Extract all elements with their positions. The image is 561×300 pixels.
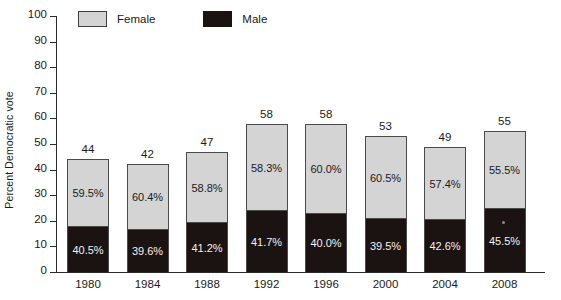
y-tick-mark [50, 118, 56, 119]
bar-segment-female[interactable]: 58.3% [247, 125, 287, 210]
bar-segment-label-male: 39.6% [132, 245, 163, 257]
bar-segment-label-male: 39.5% [370, 240, 401, 252]
y-tick-mark [50, 170, 56, 171]
bar-group[interactable]: 60.4%39.6%42 [127, 16, 169, 272]
bar-segment-label-male: 40.5% [72, 244, 103, 256]
scan-artifact-dot [502, 221, 505, 224]
bar-total-label: 55 [484, 115, 526, 127]
x-tick-label: 2004 [424, 278, 466, 290]
bar-segment-female[interactable]: 59.5% [68, 160, 108, 226]
y-tick-label: 10 [21, 238, 47, 250]
stacked-bar[interactable]: 55.5%45.5% [484, 131, 526, 272]
y-tick-label: 80 [21, 59, 47, 71]
y-tick-label: 70 [21, 85, 47, 97]
bar-segment-female[interactable]: 60.4% [128, 165, 168, 229]
bar-total-label: 53 [365, 120, 407, 132]
y-tick-mark [50, 246, 56, 247]
bar-total-label: 58 [305, 108, 347, 120]
y-tick-mark [50, 195, 56, 196]
x-axis-line [56, 272, 545, 273]
stacked-bar[interactable]: 60.5%39.5% [365, 136, 407, 272]
stacked-bar[interactable]: 60.4%39.6% [127, 164, 169, 272]
bar-group[interactable]: 58.8%41.2%47 [186, 16, 228, 272]
y-tick-label: 60 [21, 110, 47, 122]
y-tick-label: 100 [21, 8, 47, 20]
y-tick-mark [50, 221, 56, 222]
bar-segment-female[interactable]: 57.4% [425, 148, 465, 219]
bar-segment-label-female: 60.0% [310, 163, 341, 175]
y-tick-label: 30 [21, 187, 47, 199]
y-tick-mark [50, 16, 56, 17]
bar-segment-male[interactable]: 42.6% [425, 219, 465, 272]
bar-total-label: 42 [127, 148, 169, 160]
bar-segment-label-female: 55.5% [489, 164, 520, 176]
bar-segment-label-female: 60.5% [370, 172, 401, 184]
x-tick-label: 1996 [305, 278, 347, 290]
bar-group[interactable]: 59.5%40.5%44 [67, 16, 109, 272]
bar-group[interactable]: 55.5%45.5%55 [484, 16, 526, 272]
bar-total-label: 58 [246, 108, 288, 120]
bar-segment-label-female: 57.4% [429, 178, 460, 190]
bar-segment-label-female: 59.5% [72, 187, 103, 199]
stacked-bar[interactable]: 58.8%41.2% [186, 152, 228, 272]
bar-total-label: 47 [186, 136, 228, 148]
x-tick-label: 1984 [127, 278, 169, 290]
bar-segment-label-male: 41.7% [251, 236, 282, 248]
bar-segment-male[interactable]: 40.5% [68, 226, 108, 272]
y-tick-label: 40 [21, 162, 47, 174]
y-tick-label: 90 [21, 34, 47, 46]
x-tick-label: 1988 [186, 278, 228, 290]
y-tick-mark [50, 67, 56, 68]
stacked-bar[interactable]: 57.4%42.6% [424, 147, 466, 272]
bar-segment-female[interactable]: 60.0% [306, 125, 346, 213]
y-axis-title-text: Percent Democratic vote [3, 91, 15, 208]
bar-total-label: 44 [67, 143, 109, 155]
bar-group[interactable]: 60.5%39.5%53 [365, 16, 407, 272]
bar-segment-male[interactable]: 41.2% [187, 222, 227, 272]
y-tick-label: 50 [21, 136, 47, 148]
bar-segment-label-male: 40.0% [310, 237, 341, 249]
y-tick-mark [50, 144, 56, 145]
x-tick-label: 1980 [67, 278, 109, 290]
bar-segment-label-female: 58.8% [191, 182, 222, 194]
plot-area: 0102030405060708090100 59.5%40.5%4460.4%… [56, 16, 545, 272]
bar-segment-male[interactable]: 41.7% [247, 210, 287, 272]
x-tick-label: 2008 [484, 278, 526, 290]
x-tick-label: 2000 [365, 278, 407, 290]
bar-segment-female[interactable]: 58.8% [187, 153, 227, 222]
bar-segment-female[interactable]: 60.5% [366, 137, 406, 218]
bar-segment-male[interactable]: 45.5% [485, 208, 525, 272]
y-tick-mark [50, 272, 56, 273]
y-tick-label: 20 [21, 213, 47, 225]
bar-group[interactable]: 58.3%41.7%58 [246, 16, 288, 272]
bar-group[interactable]: 60.0%40.0%58 [305, 16, 347, 272]
bar-segment-male[interactable]: 40.0% [306, 213, 346, 272]
y-tick-mark [50, 42, 56, 43]
bar-group[interactable]: 57.4%42.6%49 [424, 16, 466, 272]
bar-segment-label-male: 42.6% [429, 240, 460, 252]
bar-segment-male[interactable]: 39.5% [366, 218, 406, 272]
y-tick-label: 0 [21, 264, 47, 276]
bar-segment-label-female: 58.3% [251, 162, 282, 174]
stacked-bar[interactable]: 60.0%40.0% [305, 124, 347, 272]
bar-segment-label-male: 41.2% [191, 242, 222, 254]
x-tick-label: 1992 [246, 278, 288, 290]
bar-segment-female[interactable]: 55.5% [485, 132, 525, 208]
y-axis-title: Percent Democratic vote [0, 0, 18, 300]
bar-segment-male[interactable]: 39.6% [128, 229, 168, 272]
y-tick-mark [50, 93, 56, 94]
bar-total-label: 49 [424, 131, 466, 143]
bar-chart: Female Male Percent Democratic vote 0102… [0, 0, 561, 300]
stacked-bar[interactable]: 59.5%40.5% [67, 159, 109, 272]
y-axis-line [56, 16, 57, 273]
bar-segment-label-male: 45.5% [489, 235, 520, 247]
stacked-bar[interactable]: 58.3%41.7% [246, 124, 288, 272]
bar-segment-label-female: 60.4% [132, 191, 163, 203]
